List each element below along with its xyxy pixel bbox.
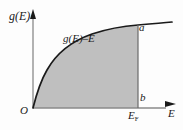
- curve-label: g(E)–E: [63, 33, 95, 44]
- origin-label: O: [20, 105, 28, 116]
- y-axis-label: g(E): [9, 10, 30, 22]
- x-axis-label: E: [168, 108, 175, 119]
- fermi-energy-tick-label: EF: [128, 110, 139, 123]
- density-of-states-figure: g(E) g(E)–E a b O EF E: [0, 0, 183, 130]
- y-axis-arrow-icon: [30, 9, 36, 19]
- point-b-label: b: [140, 92, 146, 103]
- point-a-label: a: [139, 22, 145, 33]
- fermi-energy-subscript: F: [135, 115, 139, 122]
- fermi-energy-base: E: [128, 109, 135, 121]
